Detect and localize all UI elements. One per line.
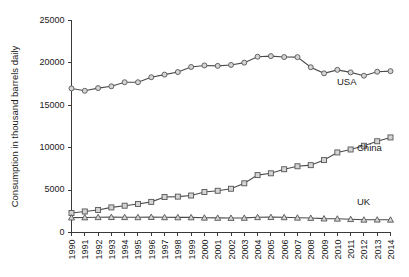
y-axis-tick-label: 10000 <box>39 142 64 152</box>
series-marker-china <box>96 207 101 212</box>
series-marker-china <box>122 203 127 208</box>
series-marker-china <box>255 173 260 178</box>
chart-canvas: 0500010000150002000025000Consumption in … <box>0 0 409 277</box>
x-axis-tick-label: 1999 <box>187 240 197 260</box>
x-axis-tick-label: 1995 <box>133 240 143 260</box>
x-axis-tick-label: 1993 <box>107 240 117 260</box>
x-axis-tick-label: 1997 <box>160 240 170 260</box>
x-axis-tick-label: 1996 <box>147 240 157 260</box>
x-axis-tick-label: 1994 <box>120 240 130 260</box>
series-marker-china <box>215 188 220 193</box>
series-marker-usa <box>295 55 300 60</box>
x-axis-tick-label: 2001 <box>213 240 223 260</box>
x-axis-tick-label: 2000 <box>200 240 210 260</box>
series-line-china <box>72 137 391 213</box>
series-marker-usa <box>162 72 167 77</box>
series-marker-usa <box>242 60 247 65</box>
x-axis-tick-label: 1990 <box>67 240 77 260</box>
x-axis-tick-label: 2008 <box>306 240 316 260</box>
series-marker-usa <box>96 86 101 91</box>
x-axis-tick-label: 1991 <box>80 240 90 260</box>
series-marker-china <box>335 150 340 155</box>
x-axis-tick-label: 2004 <box>253 240 263 260</box>
x-axis-tick-label: 1998 <box>173 240 183 260</box>
y-axis-tick-label: 0 <box>59 227 64 237</box>
series-marker-china <box>82 209 87 214</box>
series-marker-china <box>109 205 114 210</box>
series-marker-usa <box>375 69 380 74</box>
series-marker-usa <box>361 73 366 78</box>
x-axis-tick-label: 1992 <box>94 240 104 260</box>
series-marker-usa <box>135 80 140 85</box>
y-axis-tick-label: 15000 <box>39 100 64 110</box>
series-marker-china <box>189 193 194 198</box>
x-axis-tick-label: 2013 <box>373 240 383 260</box>
series-label-uk: UK <box>357 196 371 207</box>
series-marker-usa <box>189 64 194 69</box>
series-marker-china <box>242 181 247 186</box>
series-marker-usa <box>149 75 154 80</box>
series-marker-usa <box>335 67 340 72</box>
series-marker-usa <box>109 84 114 89</box>
series-marker-usa <box>268 54 273 59</box>
series-marker-china <box>162 195 167 200</box>
series-marker-china <box>175 194 180 199</box>
series-marker-usa <box>322 71 327 76</box>
series-marker-china <box>282 167 287 172</box>
line-chart: 0500010000150002000025000Consumption in … <box>0 0 409 277</box>
y-axis-title: Consumption in thousand barrels daily <box>9 45 20 207</box>
x-axis-tick-label: 2011 <box>346 240 356 259</box>
series-label-china: China <box>357 142 383 153</box>
series-marker-usa <box>175 70 180 75</box>
series-marker-china <box>348 147 353 152</box>
series-marker-china <box>295 164 300 169</box>
x-axis-tick-label: 2002 <box>227 240 237 260</box>
y-axis-tick-label: 20000 <box>39 57 64 67</box>
series-marker-usa <box>282 55 287 60</box>
x-axis-tick-label: 2005 <box>266 240 276 260</box>
series-marker-usa <box>308 65 313 70</box>
series-marker-usa <box>388 69 393 74</box>
series-marker-usa <box>69 86 74 91</box>
series-marker-usa <box>82 88 87 93</box>
series-marker-usa <box>229 62 234 67</box>
x-axis-tick-label: 2010 <box>333 240 343 260</box>
series-marker-china <box>135 202 140 207</box>
series-marker-usa <box>348 70 353 75</box>
series-marker-china <box>268 171 273 176</box>
y-axis-tick-label: 25000 <box>39 15 64 25</box>
series-marker-china <box>202 190 207 195</box>
series-marker-usa <box>122 80 127 85</box>
series-marker-usa <box>215 63 220 68</box>
x-axis-tick-label: 2007 <box>293 240 303 260</box>
y-axis-tick-label: 5000 <box>44 184 64 194</box>
series-marker-china <box>322 158 327 163</box>
x-axis-tick-label: 2003 <box>240 240 250 260</box>
series-marker-china <box>229 186 234 191</box>
series-marker-china <box>149 199 154 204</box>
axis-spine <box>72 21 391 233</box>
series-marker-china <box>388 135 393 140</box>
series-marker-usa <box>202 63 207 68</box>
x-axis-tick-label: 2012 <box>359 240 369 260</box>
series-label-usa: USA <box>337 76 357 87</box>
x-axis-tick-label: 2009 <box>320 240 330 260</box>
x-axis-tick-label: 2006 <box>280 240 290 260</box>
x-axis-tick-label: 2014 <box>386 240 396 260</box>
series-marker-china <box>308 163 313 168</box>
series-marker-usa <box>255 54 260 59</box>
